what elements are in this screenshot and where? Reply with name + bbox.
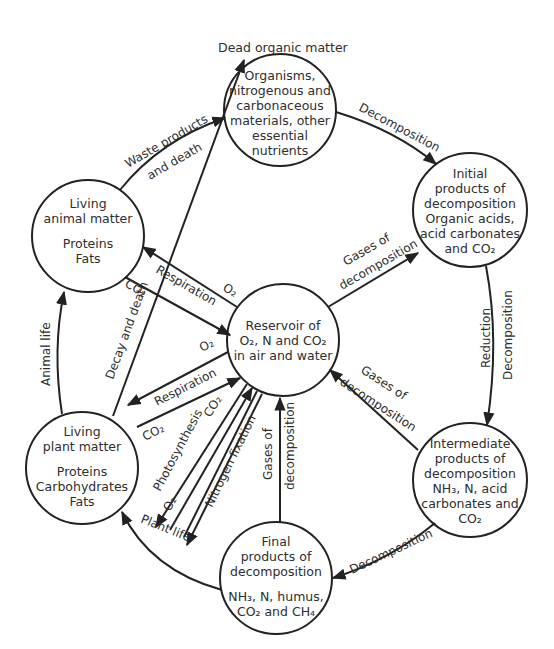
intermediate-products-text: Intermediate products of decomposition N… — [412, 436, 528, 526]
final-products-text: Final products of decomposition NH₃, N, … — [220, 534, 332, 619]
edge-animal-life — [57, 292, 64, 414]
label-decomp-bottom: Decomposition — [347, 526, 434, 577]
label-co2-photo: CO₂ — [201, 393, 225, 420]
living-plant-text: Living plant matter Proteins Carbohydrat… — [26, 424, 138, 509]
dead-organic-text: Organisms, nitrogenous and carbonaceous … — [224, 68, 336, 158]
label-o2-photo: O₂ — [160, 494, 179, 513]
label-decomp-right: Decomposition — [501, 290, 515, 380]
initial-products-text: Initial products of decomposition Organi… — [412, 166, 528, 256]
label-reduction: Reduction — [479, 308, 493, 368]
label-gases-3a: Gases of — [261, 427, 275, 480]
label-animal-life: Animal life — [39, 322, 53, 386]
label-gases-3b: decomposition — [283, 402, 297, 490]
label-respiration-animal: Respiration — [154, 262, 220, 308]
label-photosynthesis: Photosynthesis — [150, 407, 205, 494]
reservoir-text: Reservoir of O₂, N and CO₂ in air and wa… — [227, 318, 339, 363]
label-plant-life: Plant life — [139, 512, 193, 545]
living-animal-text: Living animal matter Proteins Fats — [32, 196, 144, 266]
label-o2-plant: O₂ — [197, 336, 216, 355]
label-o2-animal: O₂ — [221, 280, 241, 299]
label-decomp-top: Decomposition — [357, 100, 443, 155]
